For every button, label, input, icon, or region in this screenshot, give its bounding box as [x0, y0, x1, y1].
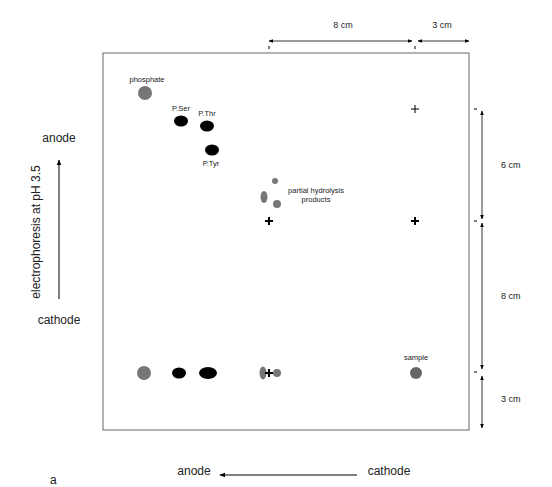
ptyr-spot — [205, 145, 219, 156]
sample-spot — [410, 367, 422, 379]
vertical-cathode-label: cathode — [38, 313, 81, 327]
partial-product-spot-1d — [273, 369, 281, 377]
panel-label: a — [50, 473, 57, 487]
plus-marker — [411, 105, 419, 113]
horizontal-anode-label: anode — [177, 464, 211, 478]
partial-hydrolysis-label: partial hydrolysis — [288, 186, 344, 195]
partial-product-spot — [273, 200, 281, 208]
plus-marker — [265, 217, 273, 225]
pser-label: P.Ser — [172, 104, 190, 113]
partial-product-spot — [261, 191, 268, 203]
phosphate-spot — [138, 86, 152, 100]
phosphate-spot-1d — [137, 366, 151, 380]
separated-spots: phosphate P.Ser P.Thr P.Tyr partial hydr… — [129, 75, 344, 208]
pthr-spot — [200, 121, 214, 132]
vertical-anode-label: anode — [42, 131, 76, 145]
electrophoresis-diagram: 8 cm 3 cm 6 cm 8 cm 3 cm anode electroph… — [0, 0, 552, 487]
horizontal-cathode-label: cathode — [368, 464, 411, 478]
right-dimension-arrows: 6 cm 8 cm 3 cm — [474, 109, 521, 428]
partial-hydrolysis-label-line2: products — [302, 195, 331, 204]
vertical-axis-title: electrophoresis at pH 3.5 — [29, 165, 43, 299]
ptyr-label: P.Tyr — [203, 159, 220, 168]
dimension-label-8cm: 8 cm — [333, 20, 353, 30]
phosphate-label: phosphate — [129, 75, 164, 84]
pser-spot-1d — [172, 368, 186, 379]
pthr-label: P.Thr — [198, 109, 216, 118]
dimension-label-3cm: 3 cm — [432, 20, 452, 30]
plus-marker — [411, 217, 419, 225]
pser-spot — [174, 116, 188, 127]
top-dimension-arrows: 8 cm 3 cm — [269, 20, 469, 49]
first-dimension-spots: sample — [137, 353, 428, 380]
pthr-ptyr-spot-1d — [199, 367, 217, 379]
partial-product-spot — [272, 178, 278, 184]
dimension-label-3cm-vertical: 3 cm — [501, 394, 521, 404]
vertical-axis-annotation: anode electrophoresis at pH 3.5 cathode — [29, 131, 81, 327]
sample-label: sample — [404, 353, 428, 362]
horizontal-axis-annotation: anode cathode — [177, 464, 410, 478]
origin-markers — [265, 105, 419, 225]
plus-marker — [265, 369, 273, 377]
dimension-label-6cm: 6 cm — [501, 160, 521, 170]
dimension-label-8cm-vertical: 8 cm — [501, 291, 521, 301]
